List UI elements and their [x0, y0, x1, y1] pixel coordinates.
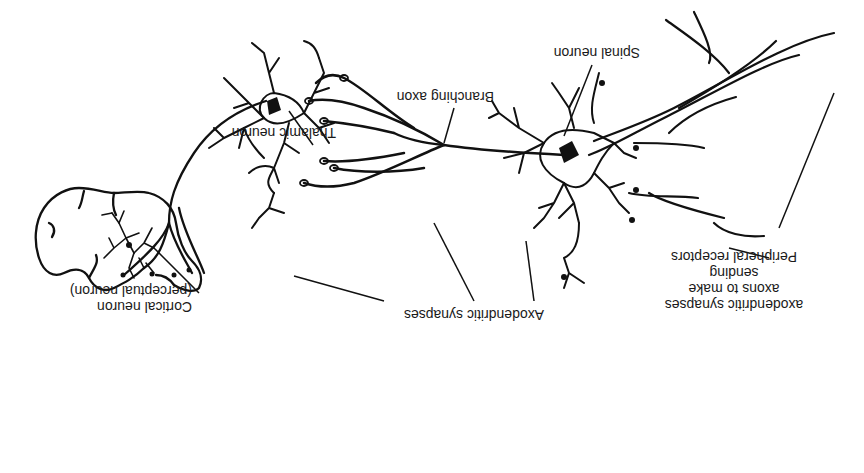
- label-peripheral-line2: axons to make: [644, 281, 824, 297]
- label-spinal-neuron: Spinal neuron: [554, 45, 640, 61]
- leader-branching-axon: [444, 108, 454, 143]
- leader-spinal-neuron: [564, 65, 592, 136]
- leader-synapse-cortical: [294, 276, 384, 301]
- label-cortical-neuron-title: Cortical neuron: [70, 299, 192, 315]
- spinal-neuron-soma: [559, 80, 639, 280]
- diagram-drawing: [0, 0, 864, 473]
- label-peripheral-receptors: axodendritic synapses axons to make send…: [644, 249, 824, 313]
- label-cortical-neuron-subtitle: (perceptual neuron): [70, 283, 192, 299]
- spinal-neuron: [489, 73, 636, 288]
- neural-pathway-diagram: Spinal neuron Branching axon Thalamic ne…: [0, 0, 864, 473]
- label-peripheral-line1: axodendritic synapses: [644, 297, 824, 313]
- label-peripheral-line4: Peripheral receptors: [644, 249, 824, 265]
- leader-synapse-spinal: [526, 241, 534, 301]
- leader-synapse-thalamic: [434, 223, 474, 301]
- label-peripheral-line3: sending: [644, 265, 824, 281]
- label-thalamic-neuron: Thalamic neuron: [232, 125, 336, 141]
- label-branching-axon: Branching axon: [397, 89, 494, 105]
- thalamic-neuron-soma: [267, 97, 281, 115]
- label-axodendritic-synapses: Axodendritic synapses: [404, 307, 544, 323]
- label-cortical-neuron: Cortical neuron (perceptual neuron): [70, 283, 192, 315]
- leader-peripheral-2: [779, 93, 834, 228]
